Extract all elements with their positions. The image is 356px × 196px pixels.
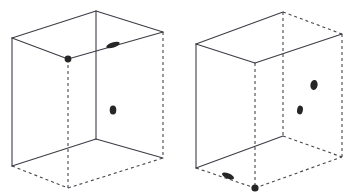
hidden-edge-back_bottom_left-back_bottom_right [255, 157, 342, 188]
hidden-edge-front_bottom_left-back_bottom_left [12, 166, 68, 188]
visible-edge-front_bottom_right-back_bottom_right [96, 139, 163, 158]
visible-edge-back_top_left-back_top_right [255, 34, 342, 63]
visible-edge-front_bottom_left-front_bottom_right [196, 136, 283, 168]
marker-dash-blob-bottom [221, 171, 235, 181]
hidden-edge-front_top_right-back_top_right [283, 12, 342, 34]
visible-edge-front_top_left-back_top_left [12, 38, 68, 59]
visible-edge-front_top_right-back_top_right [96, 11, 163, 32]
marker-corner-dot-bottom [251, 184, 258, 191]
diagram-canvas [0, 0, 356, 196]
visible-edge-front_top_left-front_top_right [12, 11, 96, 38]
visible-edge-front_bottom_left-front_bottom_right [12, 139, 96, 166]
marker-oval-blob-lower [296, 105, 303, 115]
marker-oval-blob [110, 105, 117, 114]
hidden-edge-front_bottom_right-back_bottom_right [283, 136, 342, 157]
visible-edge-front_top_left-front_top_right [196, 12, 283, 44]
marker-oval-blob-upper [310, 79, 319, 90]
wireframe-box-diagram [0, 0, 356, 196]
hidden-edge-front_bottom_left-back_bottom_left [196, 168, 255, 188]
visible-edge-front_top_left-back_top_left [196, 44, 255, 63]
marker-corner-dot [65, 56, 72, 63]
box-group-right [196, 12, 342, 192]
hidden-edge-back_bottom_left-back_bottom_right [68, 158, 163, 188]
box-group-left [12, 11, 163, 188]
